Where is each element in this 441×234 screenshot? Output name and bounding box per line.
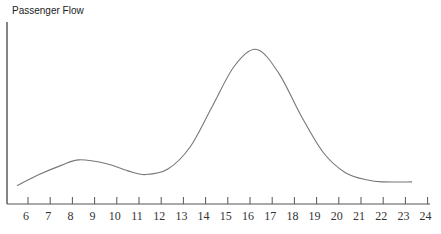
x-tick-label: 6 bbox=[23, 209, 29, 223]
x-tick-label: 19 bbox=[309, 209, 321, 223]
line-chart: 6789101112131415161718192021222324 bbox=[0, 0, 441, 234]
x-tick-label: 17 bbox=[264, 209, 276, 223]
x-tick-label: 12 bbox=[153, 209, 165, 223]
x-tick-label: 8 bbox=[67, 209, 73, 223]
x-tick-label: 7 bbox=[45, 209, 51, 223]
x-tick-label: 16 bbox=[242, 209, 254, 223]
x-ticks: 6789101112131415161718192021222324 bbox=[23, 197, 432, 223]
x-tick-label: 15 bbox=[220, 209, 232, 223]
x-tick-label: 21 bbox=[353, 209, 365, 223]
x-tick-label: 24 bbox=[420, 209, 432, 223]
x-tick-label: 10 bbox=[109, 209, 121, 223]
x-tick-label: 20 bbox=[331, 209, 343, 223]
x-tick-label: 11 bbox=[131, 209, 143, 223]
x-tick-label: 9 bbox=[90, 209, 96, 223]
x-tick-label: 23 bbox=[397, 209, 409, 223]
x-tick-label: 22 bbox=[375, 209, 387, 223]
x-tick-label: 18 bbox=[286, 209, 298, 223]
passenger-flow-curve bbox=[17, 49, 412, 185]
x-tick-label: 14 bbox=[198, 209, 210, 223]
x-tick-label: 13 bbox=[175, 209, 187, 223]
